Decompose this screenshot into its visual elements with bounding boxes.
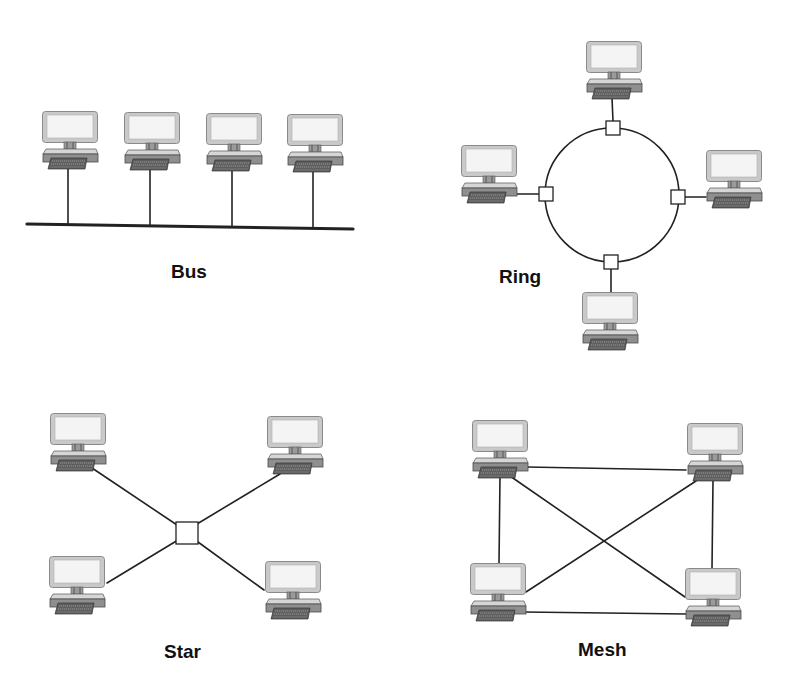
star-computer-icon-4: [266, 562, 322, 620]
network-topologies-diagram: Bus Ring Star Mesh: [0, 0, 794, 697]
bus-label: Bus: [171, 262, 207, 281]
mesh-computer-icon-4: [686, 569, 742, 627]
star-link-2: [197, 474, 280, 524]
mesh-computer-icon-1: [473, 421, 529, 479]
bus-computer-icon-2: [125, 113, 181, 171]
star-link-1: [92, 468, 180, 527]
ring-connector-1: [606, 121, 620, 135]
mesh-link-2: [499, 476, 500, 564]
star-hub: [176, 522, 198, 544]
ring-connector-3: [671, 190, 685, 204]
star-computer-icon-1: [51, 414, 107, 472]
nodes-layer: [43, 42, 763, 627]
diagram-canvas: [0, 0, 794, 697]
mesh-computer-icon-3: [471, 564, 527, 622]
ring-computer-icon-2: [462, 146, 518, 204]
mesh-link-3: [712, 481, 713, 569]
star-link-4: [198, 542, 264, 590]
star-label: Star: [164, 642, 201, 661]
bus-backbone-cable: [27, 224, 353, 229]
ring-computer-icon-1: [587, 42, 643, 100]
mesh-computer-icon-2: [688, 424, 744, 482]
mesh-link-5: [510, 476, 685, 597]
bus-computer-icon-4: [288, 115, 344, 173]
ring-cable: [545, 128, 679, 262]
mesh-link-4: [524, 612, 686, 614]
ring-computer-icon-3: [707, 151, 763, 209]
mesh-link-6: [526, 481, 696, 592]
star-computer-icon-2: [268, 417, 324, 475]
bus-computer-icon-1: [43, 112, 99, 170]
mesh-label: Mesh: [578, 640, 627, 659]
ring-link-1: [612, 98, 613, 121]
ring-computer-icon-4: [583, 293, 639, 351]
bus-computer-icon-3: [207, 114, 263, 172]
ring-connector-2: [539, 187, 553, 201]
ring-label: Ring: [499, 267, 541, 286]
ring-connector-4: [604, 255, 618, 269]
star-link-3: [107, 540, 178, 583]
star-computer-icon-3: [50, 557, 106, 615]
mesh-link-1: [527, 467, 686, 470]
links-layer: [27, 98, 713, 614]
